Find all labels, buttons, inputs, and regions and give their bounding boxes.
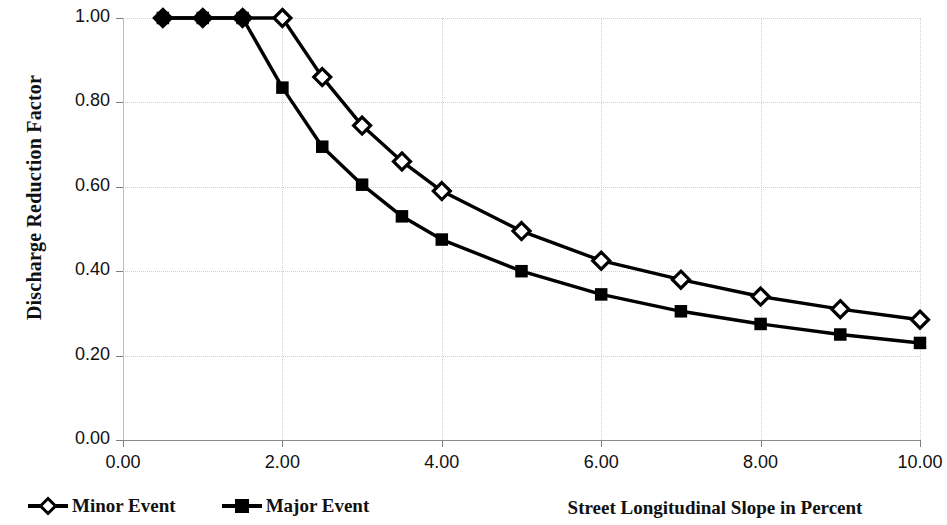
data-point-marker-filled-square — [596, 289, 607, 300]
x-axis-title: Street Longitudinal Slope in Percent — [505, 497, 925, 519]
series-line — [163, 18, 920, 343]
series-major-event — [158, 13, 926, 348]
x-tick-label: 10.00 — [875, 452, 947, 473]
x-tick-label: 8.00 — [716, 452, 806, 473]
data-point-marker-open-diamond — [672, 271, 689, 288]
x-tick-mark — [123, 440, 124, 447]
y-tick-label: 0.20 — [38, 344, 110, 365]
data-point-marker-filled-square — [158, 13, 169, 24]
series-layer — [123, 18, 920, 440]
y-tick-label: 1.00 — [38, 6, 110, 27]
gridline-vertical — [920, 18, 921, 440]
data-point-marker-open-diamond — [832, 301, 849, 318]
y-tick-label: 0.00 — [38, 428, 110, 449]
data-point-marker-filled-square — [357, 179, 368, 190]
x-tick-mark — [761, 440, 762, 447]
data-point-marker-open-diamond — [593, 252, 610, 269]
legend-label-major-event: Major Event — [266, 495, 370, 517]
data-point-marker-filled-square — [915, 338, 926, 349]
x-tick-mark — [442, 440, 443, 447]
x-tick-mark — [282, 440, 283, 447]
y-tick-label: 0.60 — [38, 175, 110, 196]
y-tick-label: 0.80 — [38, 90, 110, 111]
data-point-marker-open-diamond — [752, 288, 769, 305]
series-line — [163, 18, 920, 320]
data-point-marker-filled-square — [277, 82, 288, 93]
data-point-marker-filled-square — [676, 306, 687, 317]
legend-item-minor-event[interactable]: Minor Event — [28, 495, 176, 517]
data-point-marker-open-diamond — [912, 311, 929, 328]
x-tick-mark — [920, 440, 921, 447]
legend-label-minor-event: Minor Event — [72, 495, 176, 517]
chart-legend: Minor Event Major Event — [28, 495, 369, 517]
open-diamond-icon — [28, 496, 68, 516]
x-tick-label: 4.00 — [397, 452, 487, 473]
filled-square-icon — [222, 496, 262, 516]
data-point-marker-filled-square — [755, 319, 766, 330]
data-point-marker-filled-square — [317, 141, 328, 152]
data-point-marker-filled-square — [437, 234, 448, 245]
data-point-marker-filled-square — [835, 329, 846, 340]
legend-item-major-event[interactable]: Major Event — [222, 495, 370, 517]
x-tick-label: 6.00 — [556, 452, 646, 473]
data-point-marker-filled-square — [397, 211, 408, 222]
x-tick-mark — [601, 440, 602, 447]
x-tick-label: 2.00 — [237, 452, 327, 473]
series-minor-event — [154, 10, 928, 329]
data-point-marker-filled-square — [516, 266, 527, 277]
data-point-marker-filled-square — [197, 13, 208, 24]
plot-area — [123, 18, 920, 440]
y-tick-label: 0.40 — [38, 259, 110, 280]
data-point-marker-open-diamond — [513, 223, 530, 240]
x-tick-label: 0.00 — [78, 452, 168, 473]
data-point-marker-filled-square — [237, 13, 248, 24]
y-axis-title: Discharge Reduction Factor — [23, 0, 46, 398]
x-axis-line — [123, 440, 920, 441]
